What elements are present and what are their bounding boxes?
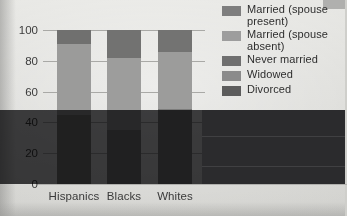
legend-item-married-spouse-present: Married (spouse present) [222, 4, 343, 27]
scan-artifact-line-upper [202, 136, 345, 137]
legend-label-married-spouse-absent: Married (spouse absent) [247, 29, 343, 52]
bar-hispanics-seg-married-present [57, 115, 91, 184]
bar-whites-seg-never-married [158, 30, 192, 52]
legend-item-widowed: Widowed [222, 69, 343, 82]
x-tick-whites: Whites [140, 190, 210, 202]
y-tick-0: 0 [6, 178, 38, 190]
bar-whites [158, 30, 192, 184]
bar-blacks-seg-married-present [107, 130, 141, 184]
bar-whites-seg-married-absent [158, 52, 192, 109]
legend-label-married-spouse-present: Married (spouse present) [247, 4, 343, 27]
axis-baseline [37, 184, 347, 185]
legend-label-never-married: Never married [247, 54, 318, 66]
y-tick-80: 80 [6, 55, 38, 67]
y-tick-40: 40 [6, 116, 38, 128]
bar-hispanics-seg-married-absent [57, 44, 91, 115]
legend-item-married-spouse-absent: Married (spouse absent) [222, 29, 343, 52]
bar-blacks-seg-married-absent [107, 58, 141, 130]
y-tick-20: 20 [6, 147, 38, 159]
legend-label-divorced: Divorced [247, 84, 291, 96]
chart-legend: Married (spouse present) Married (spouse… [222, 4, 343, 99]
y-tick-60: 60 [6, 86, 38, 98]
bar-blacks [107, 30, 141, 184]
y-tick-100: 100 [6, 24, 38, 36]
legend-swatch-icon-divorced [222, 86, 241, 96]
legend-item-never-married: Never married [222, 54, 343, 67]
legend-item-divorced: Divorced [222, 84, 343, 97]
scan-artifact-line-lower [202, 166, 345, 167]
plot-area: 100 80 60 40 20 0 Hispanics Blacks W [47, 30, 202, 184]
legend-label-widowed: Widowed [247, 69, 293, 81]
bar-hispanics-seg-never-married [57, 30, 91, 44]
bar-blacks-seg-never-married [107, 30, 141, 58]
scan-edge-bottom [0, 202, 345, 216]
legend-swatch-icon-never-married [222, 56, 241, 66]
legend-swatch-icon-married-spouse-present [222, 6, 241, 16]
legend-swatch-icon-married-spouse-absent [222, 31, 241, 41]
bar-hispanics [57, 30, 91, 184]
legend-swatch-icon-widowed [222, 71, 241, 81]
bar-whites-seg-married-present [158, 109, 192, 184]
